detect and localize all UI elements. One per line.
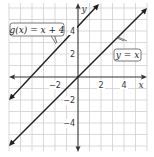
callout-y: y = x: [114, 37, 141, 61]
x-tick-neg2: −2: [49, 81, 61, 90]
y-tick-4: 4: [70, 27, 75, 36]
callout-y-label: y = x: [115, 50, 139, 60]
y-tick-2: 2: [70, 50, 75, 59]
tick-labels: −2 2 4 4 2 −2 −4 x y: [49, 4, 144, 128]
callout-g-label: g(x) = x + 4: [9, 25, 64, 35]
x-tick-4: 4: [121, 81, 126, 90]
y-axis-label: y: [80, 4, 87, 14]
callout-g: g(x) = x + 4: [9, 23, 64, 44]
y-tick-neg4: −4: [63, 119, 75, 128]
x-tick-2: 2: [98, 81, 103, 90]
coordinate-plane: −2 2 4 4 2 −2 −4 x y g(x) = x + 4 y = x: [0, 0, 154, 157]
x-axis-label: x: [138, 80, 143, 90]
y-tick-neg2: −2: [63, 96, 75, 105]
